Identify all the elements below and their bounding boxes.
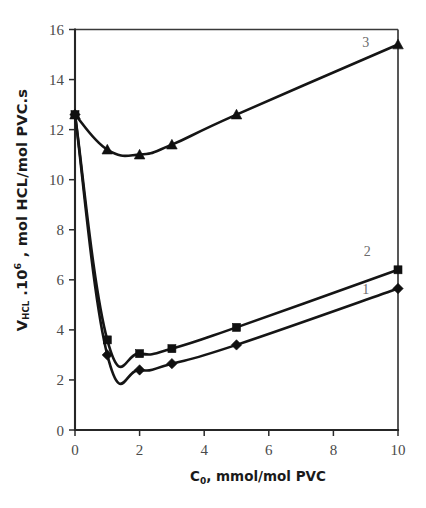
- x-label-sub: 0: [200, 476, 206, 486]
- data-point-2: [233, 323, 241, 331]
- x-axis-label: C0, mmol/mol PVC: [190, 468, 410, 484]
- y-tick-label: 14: [49, 72, 65, 88]
- curve-labels-group: 123: [362, 35, 371, 297]
- axis-frame-group: [75, 30, 398, 431]
- x-tick-label: 0: [71, 442, 79, 458]
- x-tick-label: 4: [200, 442, 208, 458]
- y-tick-label: 10: [49, 172, 64, 188]
- y-tick-label: 0: [57, 423, 65, 439]
- data-point-1: [393, 283, 403, 293]
- data-markers-group: [70, 39, 404, 375]
- curve-label-1: 1: [362, 282, 369, 297]
- data-point-2: [394, 266, 402, 274]
- data-point-2: [136, 350, 144, 358]
- x-tick-label: 8: [330, 442, 338, 458]
- x-tick-label: 10: [391, 442, 406, 458]
- chart-figure: VHCL .106 , mol HCL/mol PVC.s C0, mmol/m…: [0, 0, 426, 508]
- plot-svg: 02468101214160246810 123: [0, 0, 426, 508]
- tick-labels-group: 02468101214160246810: [49, 22, 406, 458]
- data-curves-group: [75, 45, 398, 384]
- y-tick-label: 16: [49, 22, 65, 38]
- x-tick-label: 2: [136, 442, 144, 458]
- x-label-main: C: [190, 468, 200, 484]
- y-tick-label: 2: [57, 372, 65, 388]
- y-tick-label: 8: [57, 222, 65, 238]
- curve-label-2: 2: [364, 244, 371, 259]
- axis-ticks-group: [69, 30, 398, 437]
- data-curve-3: [75, 45, 398, 156]
- y-tick-label: 4: [57, 322, 65, 338]
- data-point-2: [168, 345, 176, 353]
- x-label-rest: , mmol/mol PVC: [206, 468, 326, 484]
- curve-label-3: 3: [362, 35, 369, 50]
- y-tick-label: 6: [57, 272, 65, 288]
- data-point-2: [103, 336, 111, 344]
- data-point-3: [393, 39, 404, 49]
- y-tick-label: 12: [49, 122, 64, 138]
- plot-axes: [75, 30, 398, 431]
- x-tick-label: 6: [265, 442, 273, 458]
- data-point-1: [167, 358, 177, 368]
- data-point-1: [231, 340, 241, 350]
- data-point-1: [134, 365, 144, 375]
